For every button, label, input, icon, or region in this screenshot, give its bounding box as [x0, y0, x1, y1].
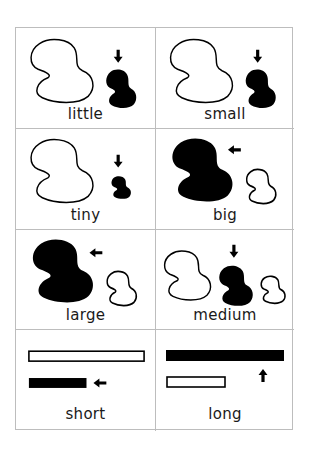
- card-label: little: [16, 105, 155, 123]
- card-small: small: [156, 28, 294, 129]
- card-label: long: [156, 405, 294, 423]
- card-medium: medium: [156, 230, 294, 330]
- flashcard-sheet: little small t: [15, 27, 293, 430]
- card-label: short: [16, 405, 155, 423]
- filled-blob: [112, 176, 131, 199]
- filled-bar-long: [166, 350, 284, 361]
- card-large: large: [16, 230, 156, 330]
- arrow-left-icon: [228, 145, 241, 154]
- outline-bar-long: [29, 351, 144, 361]
- arrow-down-icon: [114, 50, 123, 63]
- filled-bar-short: [29, 378, 87, 388]
- outline-blob: [107, 271, 136, 305]
- arrow-left-icon: [93, 379, 106, 388]
- filled-blob: [172, 139, 232, 202]
- card-long: long: [156, 330, 294, 431]
- outline-blob-large: [165, 251, 211, 300]
- card-label: big: [156, 206, 294, 224]
- card-short: short: [16, 330, 156, 431]
- outline-blob: [247, 170, 276, 204]
- filled-blob: [106, 70, 136, 108]
- card-label: large: [16, 306, 155, 324]
- arrow-up-icon: [259, 369, 268, 382]
- arrow-left-icon: [89, 248, 102, 257]
- card-little: little: [16, 28, 156, 129]
- arrow-down-icon: [253, 50, 262, 63]
- filled-blob: [246, 70, 276, 108]
- outline-blob: [31, 40, 93, 103]
- arrow-down-icon: [114, 155, 123, 168]
- outline-bar-short: [167, 377, 225, 387]
- outline-blob: [31, 140, 93, 203]
- filled-blob-medium: [219, 266, 253, 306]
- card-label: medium: [156, 306, 294, 324]
- card-tiny: tiny: [16, 129, 156, 230]
- card-big: big: [156, 129, 294, 230]
- outline-blob: [171, 40, 233, 103]
- filled-blob: [33, 240, 93, 303]
- card-label: small: [156, 105, 294, 123]
- outline-blob-small: [261, 276, 285, 303]
- arrow-down-icon: [229, 245, 238, 258]
- card-label: tiny: [16, 206, 155, 224]
